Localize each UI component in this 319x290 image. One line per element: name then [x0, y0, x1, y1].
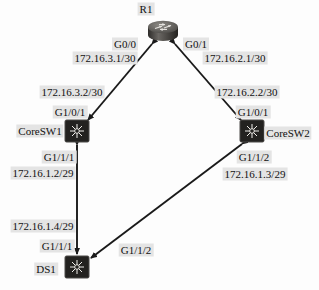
interface-label-sw2-ip: 172.16.2.2/30	[215, 86, 280, 99]
interface-label-ds1-ip: 172.16.1.4/29	[11, 220, 76, 233]
interface-label-sw1-ip: 172.16.3.2/30	[40, 86, 105, 99]
interface-label-sw2-g112: G1/1/2	[237, 151, 272, 164]
node-label-ds1: DS1	[34, 263, 58, 276]
node-coresw1[interactable]	[64, 119, 90, 143]
node-label-r1: R1	[138, 3, 155, 16]
node-ds1[interactable]	[64, 255, 90, 279]
node-label-coresw2: CoreSW2	[264, 127, 311, 140]
router-icon	[146, 18, 180, 44]
switch-icon	[239, 119, 265, 143]
interface-label-sw1-g111: G1/1/1	[42, 151, 77, 164]
network-diagram: R1 CoreSW1 CoreSW2 DS1 G0/0172.16.3.1/30…	[0, 0, 319, 290]
node-r1[interactable]	[146, 18, 180, 44]
interface-label-sw2-g101: G1/0/1	[236, 106, 271, 119]
interface-label-r1-g00: G0/0	[112, 38, 138, 51]
interface-label-sw2-g112-ip: 172.16.1.3/29	[223, 168, 288, 181]
interface-label-sw1-g111-ip: 172.16.1.2/29	[11, 167, 76, 180]
link-coresw2-ds1	[91, 144, 242, 258]
interface-label-ds1-g111: G1/1/1	[40, 240, 75, 253]
node-label-coresw1: CoreSW1	[16, 125, 63, 138]
interface-label-ds1-g112: G1/1/2	[119, 244, 154, 257]
switch-icon	[64, 119, 90, 143]
interface-label-sw1-g101: G1/0/1	[53, 106, 88, 119]
node-coresw2[interactable]	[239, 119, 265, 143]
switch-icon	[64, 255, 90, 279]
interface-label-r1-g01-ip: 172.16.2.1/30	[203, 52, 268, 65]
links-group	[77, 44, 242, 258]
interface-label-r1-g00-ip: 172.16.3.1/30	[73, 52, 138, 65]
interface-label-r1-g01: G0/1	[183, 38, 209, 51]
